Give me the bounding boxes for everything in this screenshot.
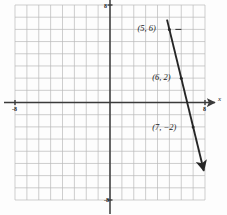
x-axis-tick-label-negative-8: -8 [12,106,17,112]
y-axis-tick-label-8: 8 [104,3,107,9]
point-label-6-2: (6, 2) [152,72,170,82]
plotted-line [167,20,204,171]
graph-figure: (5, 6) (6, 2) (7, −2) -8 8 8 -8 x [0,0,227,215]
axes [4,0,215,214]
x-axis-tick-label-8: 8 [203,106,206,112]
point-label-5-6: (5, 6) [137,23,155,33]
point-label-7-neg2: (7, −2) [152,122,176,132]
x-axis-label: x [218,95,221,103]
coordinate-plane [0,0,227,215]
y-axis-tick-label-negative-8: -8 [104,197,109,203]
